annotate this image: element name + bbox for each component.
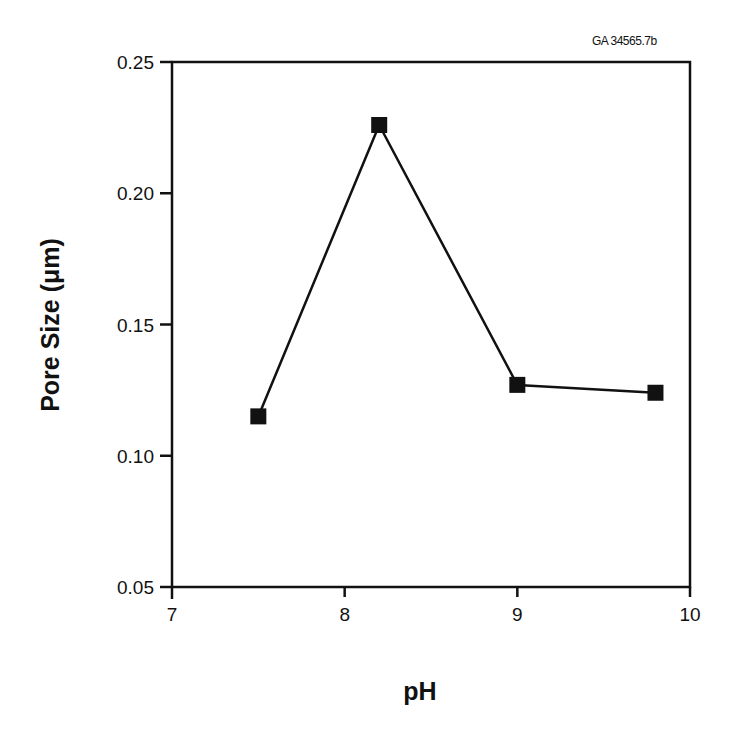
figure-id-label: GA 34565.7b — [592, 34, 657, 48]
square-marker-icon — [371, 117, 387, 133]
plot-frame — [172, 62, 690, 587]
square-marker-icon — [647, 385, 663, 401]
x-tick-label: 10 — [679, 604, 700, 625]
y-axis-title: Pore Size (μm) — [36, 238, 64, 412]
line-chart: GA 34565.7b 0.050.100.150.200.25 78910 p… — [0, 0, 735, 746]
y-tick-label: 0.25 — [117, 52, 154, 73]
x-tick-label: 8 — [339, 604, 350, 625]
y-tick-label: 0.15 — [117, 315, 154, 336]
y-tick-label: 0.20 — [117, 183, 154, 204]
x-axis: 78910 — [167, 587, 701, 625]
y-tick-label: 0.05 — [117, 577, 154, 598]
square-marker-icon — [509, 377, 525, 393]
series-line — [258, 125, 655, 416]
y-tick-label: 0.10 — [117, 446, 154, 467]
x-tick-label: 9 — [512, 604, 523, 625]
data-series — [250, 117, 663, 424]
square-marker-icon — [250, 408, 266, 424]
x-axis-title: pH — [403, 677, 436, 705]
y-axis: 0.050.100.150.200.25 — [117, 52, 172, 598]
x-tick-label: 7 — [167, 604, 178, 625]
